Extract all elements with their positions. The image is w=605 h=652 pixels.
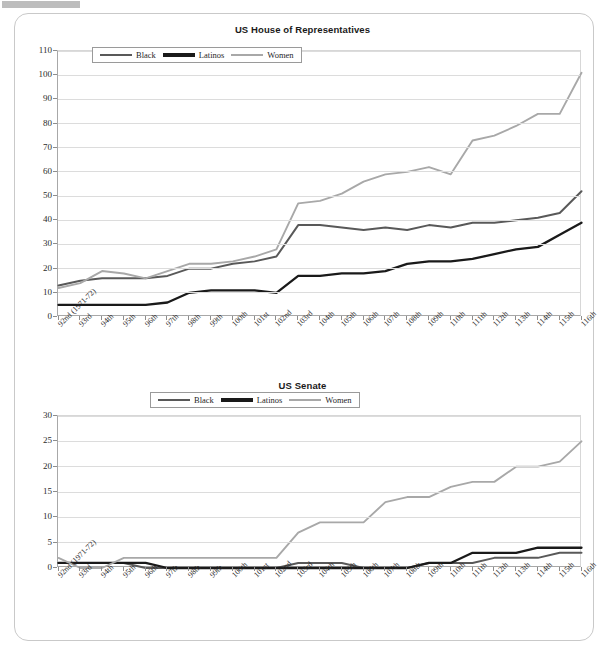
y-axis-tick: [53, 292, 57, 293]
y-axis-tick-label: 0: [18, 562, 52, 572]
y-axis-tick: [53, 268, 57, 269]
legend-label: Latinos: [257, 395, 283, 405]
y-axis-tick-label: 10: [18, 511, 52, 521]
y-axis-tick-label: 40: [18, 214, 52, 224]
legend-item-latinos: Latinos: [221, 395, 283, 405]
gridline: [58, 99, 580, 100]
senate-plot-area: [57, 415, 581, 567]
gridline: [58, 268, 580, 269]
legend-swatch-icon: [231, 54, 263, 56]
legend-label: Women: [325, 395, 351, 405]
gridline: [58, 244, 580, 245]
legend-item-latinos: Latinos: [163, 50, 225, 60]
y-axis-tick: [53, 74, 57, 75]
gridline: [58, 75, 580, 76]
series-line-women: [59, 441, 582, 568]
gridline: [58, 123, 580, 124]
house-chart-title: US House of Representatives: [0, 24, 605, 35]
legend-swatch-icon: [289, 399, 321, 401]
gridline: [58, 492, 580, 493]
y-axis-tick: [53, 171, 57, 172]
legend-item-women: Women: [231, 50, 293, 60]
gridline: [58, 466, 580, 467]
gridline: [58, 292, 580, 293]
y-axis-tick: [53, 243, 57, 244]
y-axis-tick-label: 25: [18, 435, 52, 445]
y-axis-tick: [53, 123, 57, 124]
gridline: [58, 517, 580, 518]
senate-chart-title: US Senate: [0, 380, 605, 391]
scan-header-block: [2, 1, 80, 8]
gridline: [58, 196, 580, 197]
y-axis-tick-label: 70: [18, 142, 52, 152]
y-axis-tick-label: 80: [18, 118, 52, 128]
y-axis-tick: [53, 147, 57, 148]
y-axis-tick-label: 5: [18, 537, 52, 547]
legend-swatch-icon: [163, 53, 195, 56]
house-legend: BlackLatinosWomen: [92, 47, 302, 63]
y-axis-tick: [53, 466, 57, 467]
y-axis-tick-label: 30: [18, 238, 52, 248]
y-axis-tick-label: 0: [18, 311, 52, 321]
y-axis-tick-label: 50: [18, 190, 52, 200]
chart-page: US House of Representatives 010203040506…: [0, 0, 605, 652]
gridline: [58, 147, 580, 148]
y-axis-tick: [53, 516, 57, 517]
y-axis-tick: [53, 440, 57, 441]
y-axis-tick-label: 15: [18, 486, 52, 496]
y-axis-tick: [53, 491, 57, 492]
y-axis-tick: [53, 316, 57, 317]
scan-header-strip: [0, 0, 605, 11]
house-series-lines: [58, 51, 582, 317]
y-axis-tick-label: 110: [18, 45, 52, 55]
y-axis-tick: [53, 219, 57, 220]
series-line-women: [59, 73, 582, 288]
house-plot-area: [57, 50, 581, 316]
legend-item-black: Black: [100, 50, 156, 60]
legend-swatch-icon: [158, 399, 190, 401]
y-axis-tick: [53, 542, 57, 543]
gridline: [58, 441, 580, 442]
y-axis-tick: [53, 50, 57, 51]
y-axis-tick-label: 100: [18, 69, 52, 79]
legend-swatch-icon: [221, 398, 253, 401]
y-axis-tick: [53, 415, 57, 416]
legend-item-black: Black: [158, 395, 214, 405]
y-axis-tick-label: 30: [18, 410, 52, 420]
y-axis-tick: [53, 98, 57, 99]
legend-label: Black: [136, 50, 156, 60]
gridline: [58, 220, 580, 221]
legend-label: Black: [194, 395, 214, 405]
legend-swatch-icon: [100, 54, 132, 56]
y-axis-tick-label: 10: [18, 287, 52, 297]
gridline: [58, 542, 580, 543]
y-axis-tick: [53, 567, 57, 568]
series-line-black: [59, 191, 582, 285]
senate-legend: BlackLatinosWomen: [150, 392, 360, 408]
legend-label: Women: [267, 50, 293, 60]
gridline: [58, 171, 580, 172]
y-axis-tick-label: 90: [18, 93, 52, 103]
y-axis-tick-label: 20: [18, 263, 52, 273]
legend-label: Latinos: [199, 50, 225, 60]
y-axis-tick-label: 20: [18, 461, 52, 471]
gridline: [58, 416, 580, 417]
legend-item-women: Women: [289, 395, 351, 405]
y-axis-tick: [53, 195, 57, 196]
y-axis-tick-label: 60: [18, 166, 52, 176]
